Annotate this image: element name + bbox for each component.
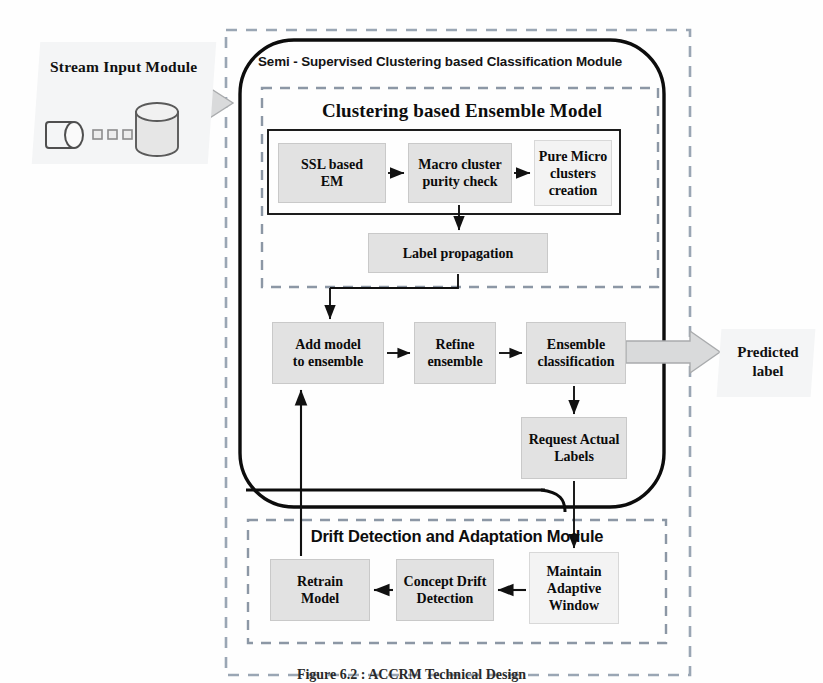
classification-to-predicted-arrow	[626, 331, 720, 373]
box-request-actual-labels[interactable]: Request Actual Labels	[521, 417, 627, 479]
ensemble-model-title: Clustering based Ensemble Model	[270, 100, 654, 122]
box-retrain-model[interactable]: Retrain Model	[270, 559, 370, 621]
figure-caption: Figure 6.2 : ACCRM Technical Design	[0, 667, 823, 683]
box-concept-drift-detection[interactable]: Concept Drift Detection	[396, 559, 494, 621]
box-ssl-based-em[interactable]: SSL based EM	[278, 143, 386, 203]
semi-supervised-module-title: Semi - Supervised Clustering based Class…	[258, 54, 678, 69]
box-pure-micro-clusters-creation[interactable]: Pure Micro clusters creation	[534, 140, 612, 206]
box-ensemble-classification[interactable]: Ensemble classification	[526, 322, 626, 384]
predicted-label-text: Predicted label	[722, 343, 814, 381]
box-maintain-adaptive-window[interactable]: Maintain Adaptive Window	[529, 552, 619, 624]
box-label-propagation[interactable]: Label propagation	[368, 233, 548, 273]
diagram-canvas: Stream Input Module Semi - Supervised Cl…	[0, 0, 823, 683]
drift-module-title: Drift Detection and Adaptation Module	[258, 527, 656, 546]
box-refine-ensemble[interactable]: Refine ensemble	[414, 322, 496, 384]
box-add-model-to-ensemble[interactable]: Add model to ensemble	[272, 322, 384, 384]
module-feedback-curve	[541, 490, 565, 512]
stream-input-title: Stream Input Module	[50, 58, 220, 76]
box-macro-cluster-purity-check[interactable]: Macro cluster purity check	[408, 143, 512, 203]
